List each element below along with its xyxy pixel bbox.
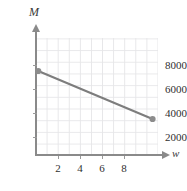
y-tick-mark (33, 89, 37, 90)
y-tick-mark (33, 113, 37, 114)
x-tick-label: 8 (116, 163, 132, 174)
y-tick-mark (33, 65, 37, 66)
x-tick-mark (124, 156, 125, 159)
y-axis-arrow-icon (32, 24, 40, 32)
x-tick-label: 2 (50, 163, 66, 174)
x-tick-label: 4 (72, 163, 88, 174)
y-tick-label: 2000 (155, 132, 187, 143)
x-axis-arrow-icon (162, 151, 170, 159)
x-axis-line (35, 154, 164, 156)
plot-grid (36, 38, 158, 155)
y-tick-label: 4000 (155, 108, 187, 119)
y-tick-mark (33, 137, 37, 138)
y-tick-label: 8000 (155, 60, 187, 71)
x-axis-label: w (172, 147, 179, 159)
x-tick-label: 6 (94, 163, 110, 174)
y-axis-label: M (29, 5, 39, 20)
line-chart: M w 8000 6000 4000 2000 2 4 6 8 (0, 0, 187, 191)
x-tick-mark (80, 156, 81, 159)
y-tick-label: 6000 (155, 84, 187, 95)
x-tick-mark (102, 156, 103, 159)
x-tick-mark (58, 156, 59, 159)
